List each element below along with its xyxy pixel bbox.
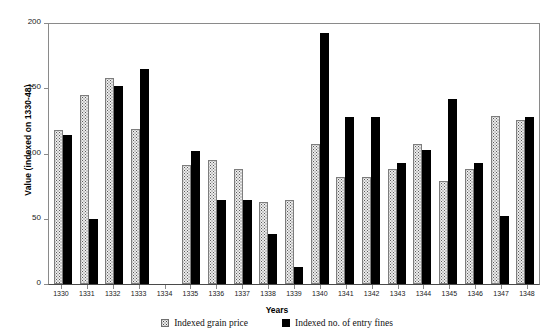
legend-label: Indexed grain price: [174, 318, 248, 328]
x-axis-tick-label: 1330: [48, 290, 74, 304]
x-axis-tick-label: 1334: [152, 290, 178, 304]
bar-group: [358, 23, 384, 284]
x-axis-tick-label: 1340: [307, 290, 333, 304]
bar-group: [101, 23, 127, 284]
x-axis-tick-mark: [488, 285, 514, 289]
x-axis-tick-label: 1345: [436, 290, 462, 304]
bar-group: [333, 23, 359, 284]
x-axis-tick-mark: [462, 285, 488, 289]
bar-group: [153, 23, 179, 284]
x-axis-ticks: [48, 285, 540, 289]
bar-grain-price: [516, 120, 525, 284]
bar-entry-fines: [217, 200, 226, 284]
x-axis-tick-mark: [177, 285, 203, 289]
bar-entry-fines: [320, 33, 329, 284]
x-axis-tick-label: 1347: [488, 290, 514, 304]
bar-grain-price: [311, 144, 320, 284]
x-axis-tick-mark: [74, 285, 100, 289]
bar-group: [50, 23, 76, 284]
bar-entry-fines: [243, 200, 252, 284]
bar-entry-fines: [140, 69, 149, 284]
bar-entry-fines: [345, 117, 354, 284]
bar-group: [256, 23, 282, 284]
bar-group: [384, 23, 410, 284]
y-axis-tick-label: 0: [37, 278, 41, 287]
bar-grain-price: [80, 95, 89, 284]
x-axis-tick-mark: [307, 285, 333, 289]
bar-entry-fines: [114, 86, 123, 284]
bar-entry-fines: [500, 216, 509, 284]
x-axis-tick-mark: [281, 285, 307, 289]
bar-entry-fines: [268, 234, 277, 284]
bar-grain-price: [182, 165, 191, 284]
x-axis-tick-mark: [436, 285, 462, 289]
x-axis-tick-label: 1346: [462, 290, 488, 304]
bar-group: [281, 23, 307, 284]
bar-grain-price: [285, 200, 294, 284]
bar-grain-price: [259, 202, 268, 284]
bar-entry-fines: [525, 117, 534, 284]
bar-chart: Value (indexed on 1330-48) 050100150200 …: [0, 0, 554, 333]
x-axis-tick-mark: [126, 285, 152, 289]
x-axis-tick-label: 1348: [514, 290, 540, 304]
bar-grain-price: [208, 160, 217, 284]
y-axis-tick-label: 50: [32, 213, 41, 222]
chart-legend: Indexed grain priceIndexed no. of entry …: [0, 318, 554, 328]
bar-grain-price: [336, 177, 345, 284]
x-axis-tick-label: 1335: [177, 290, 203, 304]
y-axis-tick-label: 150: [28, 82, 41, 91]
bar-grain-price: [131, 129, 140, 284]
bar-entry-fines: [89, 219, 98, 284]
bar-entry-fines: [371, 117, 380, 284]
bar-grain-price: [491, 116, 500, 284]
x-axis-tick-label: 1336: [203, 290, 229, 304]
y-axis-title: Value (indexed on 1330-48): [23, 20, 33, 260]
bar-entry-fines: [422, 150, 431, 284]
x-axis-title: Years: [0, 305, 554, 315]
bar-grain-price: [388, 169, 397, 284]
bar-grain-price: [413, 144, 422, 284]
legend-swatch-fines: [282, 319, 290, 327]
x-axis-tick-label: 1343: [385, 290, 411, 304]
bar-group: [204, 23, 230, 284]
legend-item: Indexed no. of entry fines: [282, 318, 393, 328]
legend-label: Indexed no. of entry fines: [295, 318, 393, 328]
bar-group: [127, 23, 153, 284]
bar-group: [178, 23, 204, 284]
bar-grain-price: [234, 169, 243, 284]
x-axis-tick-mark: [229, 285, 255, 289]
y-axis-tick-label: 200: [28, 17, 41, 26]
bar-group: [307, 23, 333, 284]
bar-grain-price: [465, 169, 474, 284]
x-axis-tick-label: 1339: [281, 290, 307, 304]
x-axis-tick-mark: [333, 285, 359, 289]
x-axis-tick-mark: [255, 285, 281, 289]
bar-entry-fines: [474, 163, 483, 284]
bar-grain-price: [439, 181, 448, 284]
bar-grain-price: [362, 177, 371, 284]
x-axis-tick-label: 1342: [359, 290, 385, 304]
x-axis-tick-mark: [100, 285, 126, 289]
bar-entry-fines: [448, 99, 457, 284]
bar-group: [410, 23, 436, 284]
x-axis-tick-mark: [514, 285, 540, 289]
bar-grain-price: [54, 130, 63, 284]
bar-group: [76, 23, 102, 284]
x-axis-labels: 1330133113321333133413351336133713381339…: [48, 290, 540, 304]
bar-group: [487, 23, 513, 284]
bar-grain-price: [105, 78, 114, 284]
x-axis-tick-label: 1337: [229, 290, 255, 304]
y-axis-tick-label: 100: [28, 148, 41, 157]
legend-swatch-grain: [161, 319, 169, 327]
bar-entry-fines: [191, 151, 200, 284]
x-axis-tick-label: 1333: [126, 290, 152, 304]
x-axis-tick-mark: [385, 285, 411, 289]
legend-item: Indexed grain price: [161, 318, 248, 328]
x-axis-tick-mark: [203, 285, 229, 289]
x-axis-tick-mark: [48, 285, 74, 289]
x-axis-tick-label: 1331: [74, 290, 100, 304]
bar-group: [512, 23, 538, 284]
bar-group: [230, 23, 256, 284]
bar-entry-fines: [63, 135, 72, 284]
bar-entry-fines: [294, 267, 303, 284]
